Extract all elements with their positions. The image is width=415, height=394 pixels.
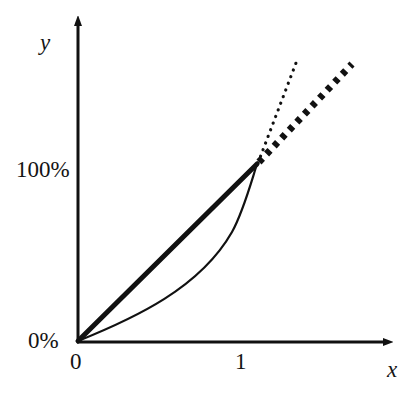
series-shallow-dotted-thick <box>259 64 352 162</box>
series-linear-solid-thick <box>78 164 257 341</box>
chart-plot-area <box>0 0 415 394</box>
y-axis-label: y <box>40 31 50 54</box>
chart-figure: y x 100% 0% 0 1 <box>0 0 415 394</box>
y-tick-label-100-percent: 100% <box>16 158 70 181</box>
x-tick-label-one: 1 <box>235 350 247 373</box>
y-tick-label-0-percent: 0% <box>28 329 59 352</box>
x-tick-label-zero: 0 <box>70 350 82 373</box>
x-axis-label: x <box>387 358 397 381</box>
